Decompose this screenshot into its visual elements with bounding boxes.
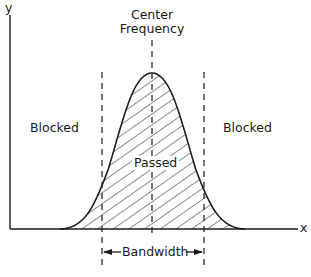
bandwidth-arrow-left <box>103 249 121 255</box>
center-frequency-label-line1: Center <box>122 8 182 22</box>
bandpass-diagram: y x Center Frequency Blocked Blocked Pas… <box>0 0 311 277</box>
blocked-left-label: Blocked <box>30 121 79 135</box>
y-axis-label: y <box>5 1 12 15</box>
center-frequency-label-line2: Frequency <box>117 22 187 36</box>
blocked-right-label: Blocked <box>223 121 272 135</box>
bandwidth-arrow-right <box>186 249 203 255</box>
diagram-graphics <box>0 0 311 277</box>
bandwidth-label: Bandwidth <box>122 245 189 259</box>
passed-label: Passed <box>132 156 179 170</box>
x-axis-label: x <box>300 221 307 235</box>
